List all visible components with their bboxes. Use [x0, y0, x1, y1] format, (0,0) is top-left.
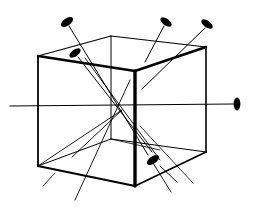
cube-symmetry-diagram	[0, 0, 256, 209]
cube-front-edges	[38, 47, 206, 186]
horizontal-axis	[10, 104, 234, 106]
axis-marker-inner-left	[68, 46, 83, 59]
axis-marker-top-center	[159, 15, 174, 28]
diagonal-axis-c	[145, 26, 164, 62]
diagonal-axis-b-tail	[160, 166, 177, 182]
edge-back-bottom-left	[38, 139, 111, 166]
edge-front-top	[38, 56, 135, 71]
diagonal-axis-d-tail	[43, 173, 55, 186]
axis-marker-top-right	[200, 17, 215, 30]
symmetry-axes	[10, 26, 234, 200]
edge-right-top	[135, 47, 206, 71]
axis-marker-right	[234, 98, 241, 111]
edge-right-bottom	[135, 152, 206, 186]
face-diagonal	[38, 110, 122, 166]
axis-marker-top-left	[59, 15, 75, 29]
diagonal-axis-d-inner	[72, 110, 122, 157]
